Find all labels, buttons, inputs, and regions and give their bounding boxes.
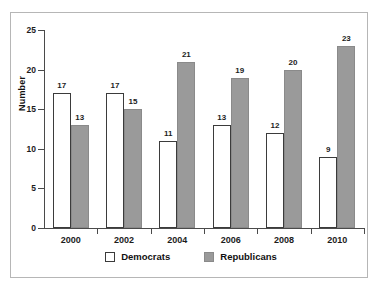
- bar-republicans-2008[interactable]: [284, 70, 302, 228]
- bar-value-label: 17: [100, 82, 130, 90]
- bar-republicans-2000[interactable]: [71, 125, 89, 228]
- legend-swatch-democrats: [105, 252, 115, 262]
- bar-democrats-2006[interactable]: [213, 125, 231, 228]
- x-tick-mark: [204, 228, 205, 234]
- x-axis-label-2004: 2004: [151, 236, 204, 245]
- y-tick-label: 10: [0, 145, 36, 154]
- y-tick-mark: [38, 188, 44, 189]
- bar-value-label: 17: [47, 82, 77, 90]
- bar-republicans-2002[interactable]: [124, 109, 142, 228]
- bar-republicans-2006[interactable]: [231, 78, 249, 228]
- x-tick-mark: [97, 228, 98, 234]
- legend-item-democrats[interactable]: Democrats: [105, 252, 170, 262]
- y-tick-mark: [38, 228, 44, 229]
- bar-democrats-2004[interactable]: [159, 141, 177, 228]
- bar-value-label: 19: [225, 67, 255, 75]
- bar-republicans-2010[interactable]: [337, 46, 355, 228]
- bar-value-label: 15: [118, 98, 148, 106]
- x-axis-label-2010: 2010: [311, 236, 364, 245]
- y-tick-label: 15: [0, 105, 36, 114]
- x-tick-mark: [311, 228, 312, 234]
- y-tick-label: 0: [0, 224, 36, 233]
- plot-area: Number 0510152025 1713171511211319122092…: [0, 0, 382, 289]
- bar-chart-figure: Number 0510152025 1713171511211319122092…: [0, 0, 382, 289]
- bar-value-label: 13: [65, 114, 95, 122]
- x-tick-mark: [257, 228, 258, 234]
- y-tick-mark: [38, 149, 44, 150]
- bar-value-label: 20: [278, 59, 308, 67]
- x-axis-label-2006: 2006: [204, 236, 257, 245]
- y-tick-mark: [38, 30, 44, 31]
- x-tick-mark: [151, 228, 152, 234]
- legend-swatch-republicans: [204, 252, 214, 262]
- x-tick-mark: [364, 228, 365, 234]
- bar-republicans-2004[interactable]: [177, 62, 195, 228]
- y-axis-line: [44, 30, 45, 229]
- y-tick-label: 5: [0, 184, 36, 193]
- bar-value-label: 23: [331, 35, 361, 43]
- y-tick-label: 25: [0, 26, 36, 35]
- bar-democrats-2010[interactable]: [319, 157, 337, 228]
- x-axis-label-2002: 2002: [97, 236, 150, 245]
- x-axis-label-2000: 2000: [44, 236, 97, 245]
- y-tick-mark: [38, 70, 44, 71]
- legend-label: Democrats: [121, 252, 170, 262]
- legend-label: Republicans: [220, 252, 277, 262]
- legend-item-republicans[interactable]: Republicans: [204, 252, 277, 262]
- y-tick-label: 20: [0, 66, 36, 75]
- bar-democrats-2002[interactable]: [106, 93, 124, 228]
- y-tick-mark: [38, 109, 44, 110]
- bar-value-label: 21: [171, 51, 201, 59]
- chart-legend: DemocratsRepublicans: [0, 252, 382, 262]
- bar-democrats-2008[interactable]: [266, 133, 284, 228]
- x-axis-label-2008: 2008: [257, 236, 310, 245]
